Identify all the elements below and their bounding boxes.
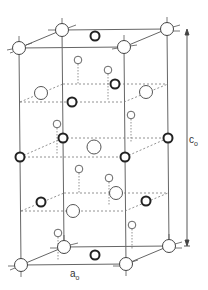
c-axis-label: co (189, 134, 198, 147)
a-axis-label: ao (70, 268, 79, 281)
atom-stems (57, 64, 132, 260)
unit-cell-diagram (0, 0, 208, 290)
